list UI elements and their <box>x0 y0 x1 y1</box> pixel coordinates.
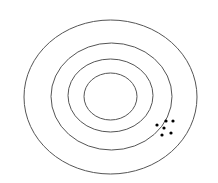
shot-dot <box>160 133 163 136</box>
shot-dot <box>164 119 167 122</box>
ring-3 <box>68 59 153 132</box>
ring-4 <box>84 73 137 120</box>
target-diagram <box>0 0 218 183</box>
shot-dot <box>155 123 158 126</box>
shot-dot <box>169 131 172 134</box>
shot-cluster <box>155 119 174 136</box>
shot-dot <box>171 119 174 122</box>
target-rings <box>24 20 197 174</box>
shot-dot <box>162 126 165 129</box>
